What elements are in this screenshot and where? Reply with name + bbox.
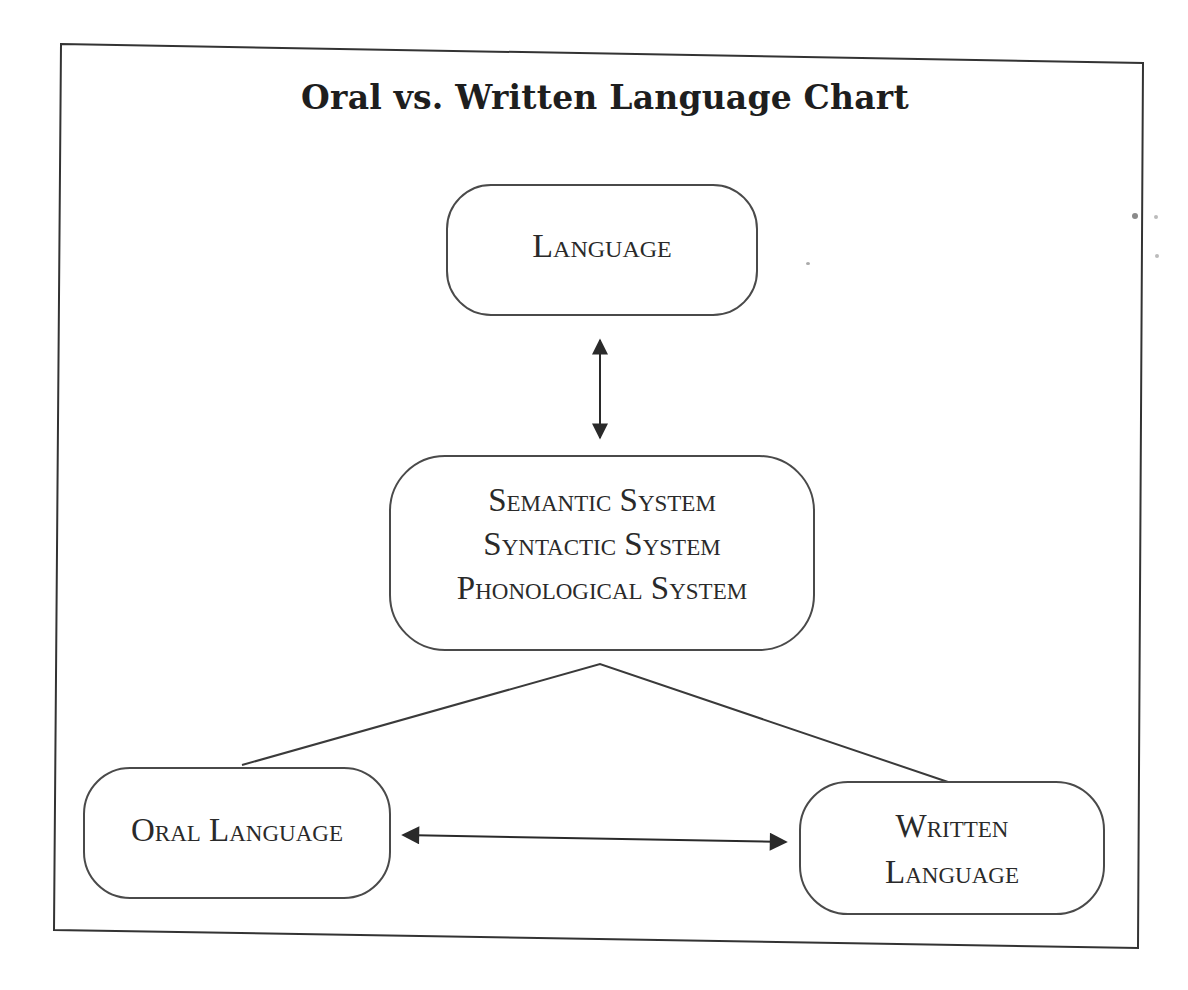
written-language-labels: Written Language: [800, 803, 1104, 895]
written-label-line-2: Language: [800, 849, 1104, 895]
written-label-line-1: Written: [800, 803, 1104, 849]
chart-title: Oral vs. Written Language Chart: [280, 78, 930, 118]
oral-written-arrow: [403, 835, 786, 842]
systems-branch-lines: [242, 664, 948, 782]
systems-labels: Semantic System Syntactic System Phonolo…: [390, 478, 814, 610]
scan-speck: [1132, 213, 1138, 219]
oral-language-label: Oral Language: [84, 810, 390, 851]
language-label: Language: [447, 225, 757, 268]
semantic-system-label: Semantic System: [390, 478, 814, 522]
syntactic-system-label: Syntactic System: [390, 522, 814, 566]
scan-speck: [806, 262, 810, 265]
phonological-system-label: Phonological System: [390, 566, 814, 610]
scan-speck: [1154, 215, 1158, 219]
scan-speck: [1155, 254, 1159, 258]
diagram-stage: Oral vs. Written Language Chart Language…: [0, 0, 1188, 990]
